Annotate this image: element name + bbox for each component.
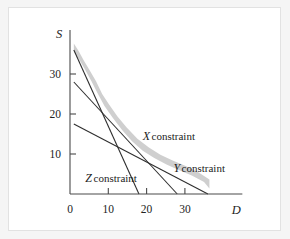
y-axis-title: S (56, 27, 63, 41)
figure-panel: 102030 0102030 S D XconstraintYconstrain… (8, 7, 281, 231)
x-tick-label: 30 (179, 203, 191, 215)
series-label-z: Zconstraint (85, 171, 137, 185)
x-tick-label: 0 (67, 203, 73, 215)
x-axis-title: D (231, 203, 241, 217)
x-tick-label: 20 (141, 203, 153, 215)
figure-root: 102030 0102030 S D XconstraintYconstrain… (0, 0, 290, 239)
y-tick-label: 30 (50, 68, 62, 80)
y-axis-tick-labels: 102030 (50, 68, 62, 160)
plot-canvas: 102030 0102030 S D XconstraintYconstrain… (9, 8, 280, 230)
x-axis-ticks (108, 188, 185, 194)
x-tick-label: 10 (103, 203, 115, 215)
y-tick-label: 20 (50, 108, 62, 120)
series-label-x: Xconstraint (142, 129, 195, 143)
y-axis-ticks (70, 74, 76, 154)
y-tick-label: 10 (50, 148, 62, 160)
x-axis-tick-labels: 0102030 (67, 203, 191, 215)
series-label-y: Yconstraint (173, 161, 225, 175)
